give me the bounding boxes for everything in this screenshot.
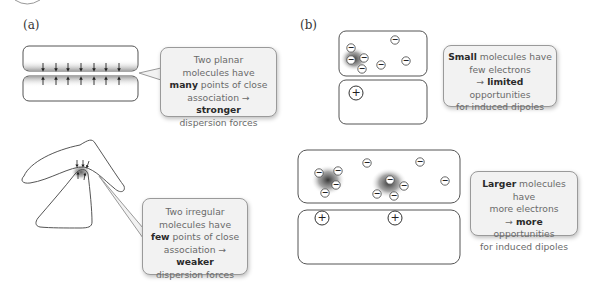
callout-text: few points of close — [147, 231, 243, 244]
decorative-arc — [15, 0, 40, 4]
callout-planar: Two planar molecules have many points of… — [160, 47, 277, 117]
panel-label-b: (b) — [300, 18, 317, 32]
emphasis: many — [170, 79, 198, 90]
callout-pointer — [99, 176, 143, 238]
electron-icon: − — [345, 42, 357, 54]
electron-icon: − — [313, 167, 325, 179]
emphasis: stronger — [196, 104, 241, 115]
nucleus-plus: + — [350, 87, 362, 99]
callout-text: many points of close — [165, 79, 272, 92]
callout-text: molecules have — [513, 178, 566, 202]
panel-label-a: (a) — [23, 18, 40, 32]
callout-text: → limited opportunities — [448, 76, 552, 101]
callout-text: association → stronger — [165, 92, 272, 117]
callout-irregular: Two irregular molecules have few points … — [142, 198, 248, 275]
callout-text: → — [505, 216, 516, 227]
callout-text: → more opportunities — [475, 216, 573, 241]
electron-icon: − — [414, 156, 426, 168]
callout-text: association → — [164, 244, 226, 255]
callout-text: molecules have — [477, 51, 552, 62]
callout-text: opportunities — [493, 228, 554, 239]
callout-small-molecules: Small molecules have few electrons → lim… — [443, 45, 557, 107]
callout-text: association → weaker — [147, 244, 243, 269]
electron-icon: − — [356, 63, 368, 75]
emphasis: few — [151, 231, 170, 242]
electron-icon: − — [384, 174, 396, 186]
electron-icon: − — [439, 175, 451, 187]
callout-text: more electrons — [475, 203, 573, 216]
electron-icon: − — [371, 188, 383, 200]
callout-text: points of close — [170, 231, 240, 242]
callout-text: association → — [187, 92, 249, 103]
callout-text: → — [477, 76, 488, 87]
callout-text: for induced dipoles — [448, 101, 552, 114]
irregular-molecule-pair — [22, 140, 124, 228]
electron-icon: − — [332, 165, 344, 177]
emphasis: more — [516, 216, 543, 227]
callout-larger-molecules: Larger molecules have more electrons → m… — [470, 171, 578, 236]
callout-text: few electrons — [448, 64, 552, 77]
callout-text: Two irregular — [147, 206, 243, 219]
electron-icon: − — [330, 179, 342, 191]
callout-text: Larger molecules have — [475, 178, 573, 203]
emphasis: limited — [487, 76, 523, 87]
callout-text: Two planar — [165, 54, 272, 67]
nucleus-plus: + — [389, 212, 401, 224]
emphasis: Small — [448, 51, 477, 62]
nucleus-plus: + — [316, 212, 328, 224]
callout-text: points of close — [198, 79, 268, 90]
electron-icon: − — [319, 187, 331, 199]
electron-icon: − — [389, 34, 401, 46]
callout-text: opportunities — [469, 89, 530, 100]
bent-molecule — [22, 140, 124, 192]
callout-text: molecules have — [147, 219, 243, 232]
callout-text: Small molecules have — [448, 51, 552, 64]
emphasis: weaker — [176, 256, 214, 267]
callout-text: for induced dipoles — [475, 241, 573, 254]
electron-icon: − — [375, 59, 387, 71]
electron-icon: − — [388, 190, 400, 202]
electron-icon: − — [361, 157, 373, 169]
planar-molecule-pair — [23, 46, 138, 101]
callout-pointer — [139, 68, 161, 80]
emphasis: Larger — [482, 178, 516, 189]
callout-text: molecules have — [165, 67, 272, 80]
callout-text: dispersion forces — [165, 117, 272, 130]
callout-text: dispersion forces — [147, 269, 243, 282]
electron-icon: − — [400, 55, 412, 67]
